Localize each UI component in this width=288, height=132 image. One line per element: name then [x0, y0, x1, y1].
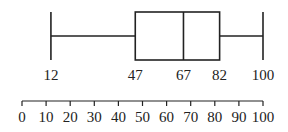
axis-tick-label: 80 — [207, 109, 222, 125]
number-line-axis — [22, 101, 263, 106]
axis-tick-label: 100 — [252, 109, 275, 125]
box-plot — [51, 12, 263, 60]
box-plot-chart: 12476782100 0102030405060708090100 — [0, 0, 288, 132]
axis-tick-label: 60 — [159, 109, 174, 125]
box-value-label: 67 — [176, 67, 192, 83]
axis-tick-label: 50 — [135, 109, 150, 125]
iqr-box — [135, 12, 219, 60]
axis-tick-label: 30 — [87, 109, 102, 125]
box-value-label: 47 — [128, 67, 144, 83]
box-value-label: 100 — [252, 67, 275, 83]
box-value-label: 82 — [212, 67, 227, 83]
axis-tick-label: 90 — [231, 109, 246, 125]
axis-tick-label: 0 — [18, 109, 26, 125]
box-value-labels: 12476782100 — [43, 67, 274, 83]
axis-tick-label: 20 — [63, 109, 78, 125]
box-value-label: 12 — [43, 67, 58, 83]
axis-tick-labels: 0102030405060708090100 — [18, 109, 274, 125]
axis-tick-label: 70 — [183, 109, 198, 125]
axis-tick-label: 40 — [111, 109, 126, 125]
axis-tick-label: 10 — [39, 109, 54, 125]
